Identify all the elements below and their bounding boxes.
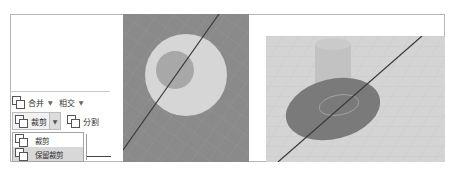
toolbar-row-1: 合并 ▼ 相交 ▼ [12,93,89,111]
menu-item-trim[interactable]: 裁剪 [13,133,83,147]
perspective-render [266,36,445,162]
split-button-label[interactable]: 分割 [83,116,99,127]
boolean-toolbar-panel: 合并 ▼ 相交 ▼ 裁剪 ▼ 分割 裁剪 保留裁剪 [10,14,123,162]
boolean-merge-icon[interactable] [12,96,24,108]
merge-button-label[interactable]: 合并 [28,97,44,108]
intersect-button-label[interactable]: 相交 [59,97,75,108]
intersect-dropdown-chevron-down-icon[interactable]: ▼ [79,99,84,106]
trim-dropdown-menu: 裁剪 保留裁剪 [12,132,84,162]
menu-pointer-line [87,156,111,157]
menu-item-label: 保留裁剪 [35,149,63,160]
top-view-viewport[interactable] [123,14,249,162]
menu-item-keep-trim[interactable]: 保留裁剪 [13,147,83,161]
merge-dropdown-chevron-down-icon[interactable]: ▼ [48,99,53,106]
trim-dropdown-chevron-down-icon[interactable]: ▼ [50,112,61,130]
trim-button[interactable]: 裁剪 [12,112,50,130]
boolean-split-icon[interactable] [67,115,79,127]
divider [10,91,110,92]
boolean-trim-icon [15,134,27,146]
menu-item-label: 裁剪 [35,135,49,146]
toolbar-row-2: 裁剪 ▼ 分割 [12,112,99,130]
boolean-trim-icon [15,115,27,127]
boolean-keep-trim-icon [15,148,27,160]
top-view-render [123,14,249,162]
trim-button-label: 裁剪 [31,116,47,127]
perspective-viewport[interactable] [266,36,445,162]
